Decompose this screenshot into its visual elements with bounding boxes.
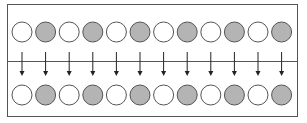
- down-arrow-icon: [279, 52, 284, 76]
- bottom-circle-gray: [224, 85, 244, 105]
- down-arrow-icon: [185, 52, 190, 76]
- top-circle-gray: [36, 22, 56, 42]
- bottom-circle-gray: [36, 85, 56, 105]
- down-arrow-icon: [232, 52, 237, 76]
- top-circle-white: [106, 22, 126, 42]
- down-arrow-icon: [138, 52, 143, 76]
- down-arrow-icon: [43, 52, 48, 76]
- bottom-circle-gray: [130, 85, 150, 105]
- down-arrow-icon: [67, 52, 72, 76]
- bottom-circle-white: [154, 85, 174, 105]
- down-arrow-icon: [114, 52, 119, 76]
- down-arrow-icon: [20, 52, 25, 76]
- bottom-circle-white: [248, 85, 268, 105]
- top-circle-gray: [130, 22, 150, 42]
- down-arrow-icon: [161, 52, 166, 76]
- bottom-circle-gray: [272, 85, 292, 105]
- arrow-row: [20, 52, 285, 76]
- top-circle-gray: [224, 22, 244, 42]
- bottom-circle-white: [59, 85, 79, 105]
- top-circle-white: [12, 22, 32, 42]
- top-circle-white: [154, 22, 174, 42]
- top-circle-row: [12, 22, 292, 42]
- bottom-circle-white: [106, 85, 126, 105]
- top-circle-gray: [177, 22, 197, 42]
- bottom-circle-gray: [83, 85, 103, 105]
- top-circle-white: [59, 22, 79, 42]
- top-circle-gray: [83, 22, 103, 42]
- top-circle-gray: [272, 22, 292, 42]
- circle-mapping-diagram: [0, 0, 307, 123]
- down-arrow-icon: [256, 52, 261, 76]
- bottom-circle-white: [12, 85, 32, 105]
- top-circle-white: [248, 22, 268, 42]
- down-arrow-icon: [90, 52, 95, 76]
- top-circle-white: [201, 22, 221, 42]
- bottom-circle-gray: [177, 85, 197, 105]
- bottom-circle-row: [12, 85, 292, 105]
- bottom-circle-white: [201, 85, 221, 105]
- down-arrow-icon: [208, 52, 213, 76]
